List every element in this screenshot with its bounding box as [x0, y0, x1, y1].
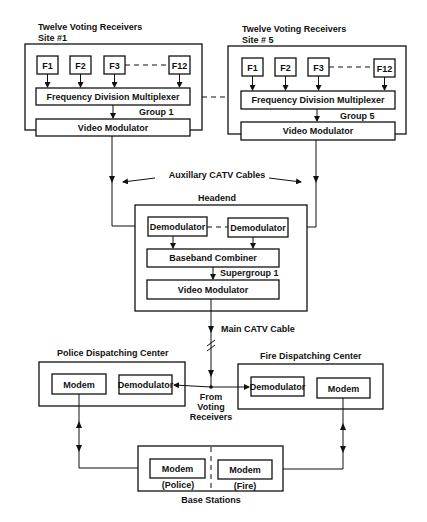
- baseband-combiner-label: Baseband Combiner: [169, 253, 257, 263]
- fire-link-down-arrow-icon: [340, 446, 346, 453]
- from-voting-line2: Voting: [197, 402, 224, 412]
- site-5-input-f12-label: F12: [377, 64, 393, 74]
- main-cable-arrow-icon: [208, 326, 214, 333]
- site-1-title-line2: Site #1: [38, 33, 67, 43]
- headend-group: Headend Demodulator Demodulator Baseband…: [135, 193, 307, 311]
- site-5-multiplexer-label: Frequency Division Multiplexer: [251, 95, 385, 105]
- site-1-group: Twelve Voting Receivers Site #1 F1 F2 F3…: [25, 22, 202, 136]
- base-stations-title: Base Stations: [181, 495, 241, 505]
- base-fire-label: (Fire): [234, 481, 257, 491]
- from-voting-line3: Receivers: [190, 412, 233, 422]
- site-5-input-f3-label: F3: [313, 63, 324, 73]
- main-cable-label: Main CATV Cable: [221, 324, 295, 334]
- main-cable-arrow-lower-icon: [208, 370, 214, 377]
- from-voting-line1: From: [200, 392, 223, 402]
- fire-dispatch-group: Fire Dispatching Center Demodulator Mode…: [238, 351, 383, 409]
- headend-title: Headend: [198, 193, 236, 203]
- aux-cables-label: Auxillary CATV Cables: [169, 170, 265, 180]
- site-1-input-f1-label: F1: [42, 61, 53, 71]
- site-5-title-line2: Site # 5: [242, 35, 274, 45]
- headend-video-modulator-label: Video Modulator: [178, 285, 249, 295]
- police-link-up-arrow-icon: [76, 421, 82, 428]
- police-dispatch-group: Police Dispatching Center Modem Demodula…: [39, 348, 185, 406]
- base-fire-modem-label: Modem: [229, 465, 261, 475]
- fire-modem-label: Modem: [328, 384, 360, 394]
- police-link-down-arrow-icon: [76, 445, 82, 452]
- supergroup-label: Supergroup 1: [220, 268, 279, 278]
- aux-cable-right-arrow-icon: [313, 176, 319, 183]
- site-1-title-line1: Twelve Voting Receivers: [38, 22, 142, 32]
- site-1-video-modulator-label: Video Modulator: [78, 123, 149, 133]
- fire-link-up-arrow-icon: [340, 423, 346, 430]
- site-1-group-label: Group 1: [139, 107, 174, 117]
- site-1-input-f12-label: F12: [172, 61, 188, 71]
- site-5-group: Twelve Voting Receivers Site # 5 F1 F2 F…: [228, 24, 406, 140]
- site-5-title-line1: Twelve Voting Receivers: [242, 24, 346, 34]
- base-police-label: (Police): [162, 480, 195, 490]
- base-stations-group: Modem (Police) Modem (Fire) Base Station…: [138, 446, 283, 505]
- headend-demodulator-right-label: Demodulator: [230, 223, 286, 233]
- police-dispatch-title: Police Dispatching Center: [57, 348, 169, 358]
- aux-cables-pointer-left: [123, 178, 155, 182]
- aux-cable-left-arrow-icon: [109, 176, 115, 183]
- fire-dispatch-title: Fire Dispatching Center: [260, 351, 362, 361]
- site-5-input-f2-label: F2: [280, 63, 291, 73]
- catv-voting-diagram: Twelve Voting Receivers Site #1 F1 F2 F3…: [0, 0, 427, 522]
- site-5-input-f1-label: F1: [247, 63, 258, 73]
- site-1-input-f2-label: F2: [75, 61, 86, 71]
- headend-demodulator-left-label: Demodulator: [150, 222, 206, 232]
- police-demodulator-label: Demodulator: [118, 380, 174, 390]
- site-1-input-f3-label: F3: [109, 61, 120, 71]
- site-5-video-modulator-label: Video Modulator: [283, 126, 354, 136]
- base-police-modem-label: Modem: [162, 464, 194, 474]
- site-5-group-label: Group 5: [340, 111, 375, 121]
- police-modem-label: Modem: [63, 380, 95, 390]
- fire-demodulator-label: Demodulator: [250, 382, 306, 392]
- site-1-multiplexer-label: Frequency Division Multiplexer: [46, 92, 180, 102]
- aux-cables-pointer-right: [269, 178, 301, 182]
